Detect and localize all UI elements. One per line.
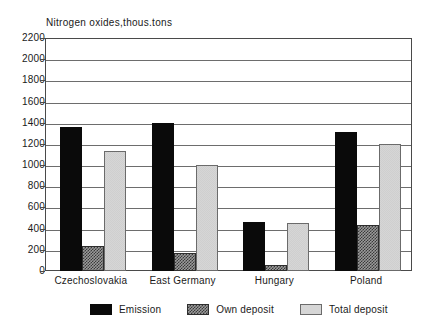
x-axis-label: East Germany <box>137 275 229 286</box>
y-axis-tick-mark <box>40 271 45 272</box>
legend-label: Own deposit <box>216 304 274 315</box>
chart-legend: EmissionOwn depositTotal deposit <box>90 301 388 317</box>
bar <box>82 246 104 271</box>
y-axis-tick-label: 2200 <box>5 33 45 43</box>
y-axis-tick-label: 400 <box>5 224 45 234</box>
y-axis-tick-label: 1200 <box>5 139 45 149</box>
legend-label: Total deposit <box>329 304 388 315</box>
bar <box>243 222 265 271</box>
bar <box>152 123 174 271</box>
y-axis-tick-label: 800 <box>5 181 45 191</box>
bar-group <box>60 38 126 271</box>
y-axis-tick-label: 2000 <box>5 54 45 64</box>
bar <box>379 144 401 271</box>
bar <box>196 165 218 271</box>
y-axis-tick-label: 200 <box>5 245 45 255</box>
bar <box>265 265 287 271</box>
bars-layer <box>45 38 412 271</box>
y-axis-tick-label: 1400 <box>5 118 45 128</box>
total-deposit-swatch <box>300 304 322 315</box>
y-axis-tick-label: 600 <box>5 202 45 212</box>
bar-chart: Nitrogen oxides,thous.tons 2200200018001… <box>0 0 428 330</box>
bar <box>174 253 196 271</box>
bar-group <box>335 38 401 271</box>
legend-item: Total deposit <box>300 304 388 315</box>
y-axis-tick-label: 1800 <box>5 75 45 85</box>
bar-group <box>243 38 309 271</box>
chart-title: Nitrogen oxides,thous.tons <box>46 17 172 28</box>
legend-item: Emission <box>90 304 161 315</box>
bar <box>104 151 126 271</box>
emission-swatch <box>90 304 112 315</box>
own-deposit-swatch <box>187 304 209 315</box>
x-axis-label: Hungary <box>229 275 321 286</box>
bar-group <box>152 38 218 271</box>
y-axis-tick-label: 0 <box>5 266 45 276</box>
legend-label: Emission <box>119 304 161 315</box>
legend-item: Own deposit <box>187 304 274 315</box>
bar <box>287 223 309 271</box>
y-axis: 2200200018001600140012001000800600400200… <box>0 38 45 271</box>
bar <box>335 132 357 271</box>
y-axis-tick-label: 1600 <box>5 97 45 107</box>
x-axis-label: Czechoslovakia <box>45 275 137 286</box>
bar <box>60 127 82 271</box>
x-axis-label: Poland <box>320 275 412 286</box>
bar <box>357 225 379 271</box>
y-axis-tick-label: 1000 <box>5 160 45 170</box>
